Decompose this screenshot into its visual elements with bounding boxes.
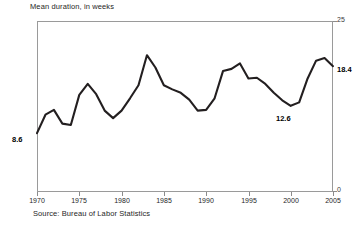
x-tick-label-1975: 1975 — [71, 197, 87, 204]
x-tick-label-1970: 1970 — [29, 197, 45, 204]
source-note: Source: Bureau of Labor Statistics — [33, 209, 150, 218]
x-tick-label-2000: 2000 — [283, 197, 299, 204]
x-tick-label-1985: 1985 — [156, 197, 172, 204]
x-tick-label-2005: 2005 — [325, 197, 341, 204]
x-tick-mark-1970 — [37, 192, 38, 196]
chart-title: Mean duration, in weeks — [30, 2, 114, 11]
x-tick-mark-1995 — [249, 192, 250, 196]
y-tick-label-top: 25 — [337, 16, 345, 23]
x-tick-mark-1980 — [122, 192, 123, 196]
x-tick-mark-1990 — [206, 192, 207, 196]
chart-figure: Mean duration, in weeks 25 0 1970 1975 1… — [0, 0, 362, 229]
plot-area — [37, 21, 333, 192]
x-tick-mark-1975 — [79, 192, 80, 196]
annotation-trough-value: 12.6 — [276, 114, 291, 123]
x-tick-mark-1985 — [164, 192, 165, 196]
x-tick-mark-2000 — [291, 192, 292, 196]
annotation-end-value: 18.4 — [337, 65, 352, 74]
x-tick-label-1995: 1995 — [241, 197, 257, 204]
x-tick-label-1990: 1990 — [198, 197, 214, 204]
y-tick-mark-top — [333, 21, 337, 22]
y-tick-label-bottom: 0 — [337, 186, 341, 193]
annotation-start-value: 8.6 — [12, 135, 22, 144]
x-tick-label-1980: 1980 — [114, 197, 130, 204]
x-tick-mark-2005 — [333, 192, 334, 196]
